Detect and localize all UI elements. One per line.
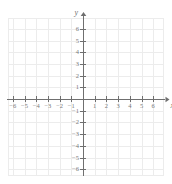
coordinate-plane: x y −6−5−4−3−2−1123456654321−1−2−3−4−5−6: [0, 0, 172, 184]
axis-layer: [0, 0, 172, 184]
